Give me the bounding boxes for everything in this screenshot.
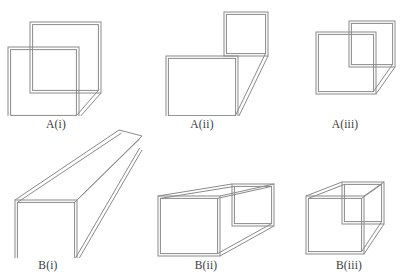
figure-b-iii-drawing <box>300 176 392 258</box>
figure-b-ii-drawing <box>148 176 278 258</box>
figure-a-ii <box>158 6 280 116</box>
figure-a-ii-drawing <box>158 6 280 116</box>
figure-b-ii <box>148 176 278 258</box>
figure-b-i-drawing <box>2 128 152 258</box>
figure-label-a-ii: A(ii) <box>160 118 244 130</box>
figure-a-iii-drawing <box>306 18 402 114</box>
figure-b-i <box>2 128 152 258</box>
figure-b-iii <box>300 176 392 258</box>
figure-label-b-iii: B(iii) <box>304 259 394 271</box>
figure-a-i-drawing <box>4 8 124 116</box>
figure-label-a-iii: A(iii) <box>300 118 390 130</box>
figure-a-iii <box>306 18 402 114</box>
figure-label-b-ii: B(ii) <box>164 259 248 271</box>
figure-a-i <box>4 8 124 116</box>
figure-board: A(i) A(ii) <box>0 0 404 280</box>
figure-label-b-i: B(i) <box>6 259 90 271</box>
